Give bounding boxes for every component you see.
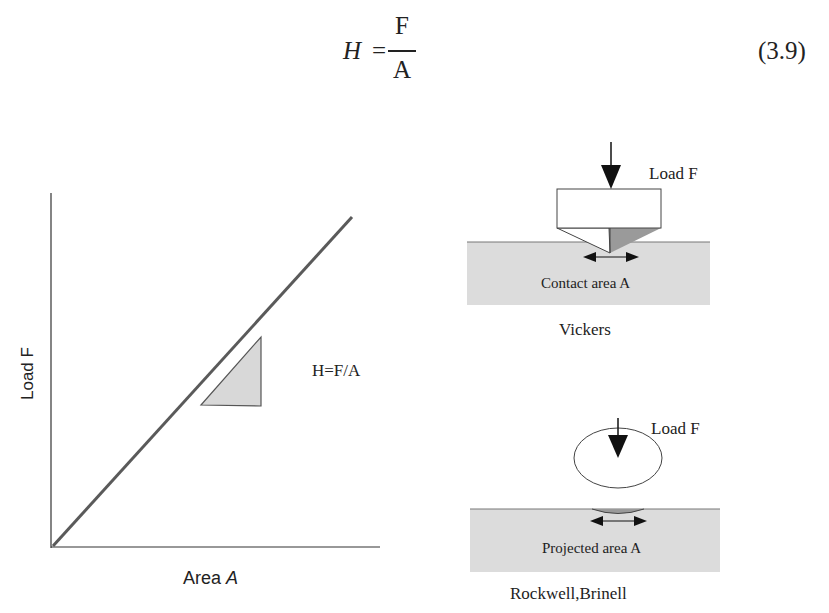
x-axis-label: Area A xyxy=(183,568,238,589)
rockwell-area-label: Projected area A xyxy=(542,540,641,557)
vickers-indenter-body xyxy=(557,189,661,228)
rockwell-load-label: Load F xyxy=(651,419,700,439)
hardness-annotation: H=F/A xyxy=(312,361,360,381)
diagram-graphics xyxy=(0,0,829,613)
vickers-area-label: Contact area A xyxy=(541,275,630,292)
y-axis-label: Load F xyxy=(18,360,38,400)
vickers-name: Vickers xyxy=(559,320,611,340)
x-axis-label-var: A xyxy=(226,568,238,588)
x-axis-label-text: Area xyxy=(183,568,226,588)
rockwell-name: Rockwell,Brinell xyxy=(510,584,627,604)
vickers-substrate xyxy=(467,242,710,305)
vickers-load-label: Load F xyxy=(649,164,698,184)
load-area-line xyxy=(53,217,352,546)
